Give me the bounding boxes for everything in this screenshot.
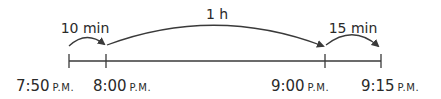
period-label: P.M. (53, 82, 74, 93)
time-value: 9:00 (271, 77, 305, 95)
jump-label-15-min: 15 min (329, 21, 378, 35)
time-value: 7:50 (16, 77, 50, 95)
period-label: P.M. (398, 82, 419, 93)
time-value: 9:15 (361, 77, 395, 95)
jump-arrow-1-h (107, 25, 323, 46)
jump-arrow-10-min (69, 37, 104, 46)
jump-arrow-15-min (326, 35, 378, 46)
jump-label-1-h: 1 h (206, 7, 228, 21)
time-value: 8:00 (93, 77, 127, 95)
time-label-750: 7:50P.M. (16, 78, 74, 96)
period-label: P.M. (130, 82, 151, 93)
jump-label-10-min: 10 min (61, 21, 110, 35)
time-label-915: 9:15P.M. (361, 78, 419, 96)
time-label-800: 8:00P.M. (93, 78, 151, 96)
time-label-900: 9:00P.M. (271, 78, 329, 96)
period-label: P.M. (308, 82, 329, 93)
